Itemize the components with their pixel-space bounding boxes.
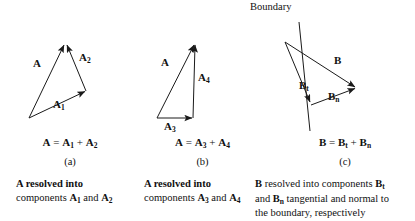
- vector-label-a: A: [33, 58, 41, 69]
- panel-a-letter: (a): [0, 157, 140, 168]
- panel-a: A A1 A2 A = A1 + A2 (a) A resolved into …: [0, 0, 140, 221]
- vector-label-bt: Bt: [299, 80, 309, 91]
- boundary-label: Boundary: [250, 2, 291, 13]
- panel-c: Boundary B Bt Bn B = Bt + Bn (c) B resol…: [275, 0, 415, 221]
- vector-label-a: A: [161, 57, 169, 68]
- panel-a-equation: A = A1 + A2: [0, 137, 140, 148]
- panel-c-caption: B resolved into components Bt and Bn tan…: [255, 177, 415, 220]
- panel-c-equation: B = Bt + Bn: [275, 137, 415, 148]
- panel-a-caption-line2: components A1 and A2: [16, 191, 141, 206]
- panel-a-caption: A resolved into components A1 and A2: [16, 177, 141, 205]
- vector-label-a3: A3: [164, 121, 176, 132]
- panel-c-letter: (c): [275, 157, 415, 168]
- boundary-line: [299, 22, 310, 131]
- panel-c-caption-line1: B resolved into components Bt: [255, 177, 415, 192]
- panel-b-letter: (b): [140, 157, 265, 168]
- vector-label-bn: Bn: [328, 91, 340, 102]
- vector-a4-arrow: [193, 45, 195, 118]
- vector-b-arrow: [285, 42, 355, 87]
- panel-b-equation: A = A3 + A4: [140, 137, 265, 148]
- vector-label-a2: A2: [79, 52, 91, 63]
- vector-label-a1: A1: [53, 99, 65, 110]
- vector-resolution-figure: A A1 A2 A = A1 + A2 (a) A resolved into …: [0, 0, 415, 221]
- vector-label-b: B: [334, 55, 341, 66]
- vector-bt-arrow: [285, 42, 310, 102]
- vector-label-a4: A4: [198, 72, 210, 83]
- panel-c-caption-line3: the boundary, respectively: [255, 206, 415, 220]
- panel-c-caption-line2: and Bn tangential and normal to: [255, 192, 415, 207]
- panel-a-caption-line1: A resolved into: [16, 177, 141, 191]
